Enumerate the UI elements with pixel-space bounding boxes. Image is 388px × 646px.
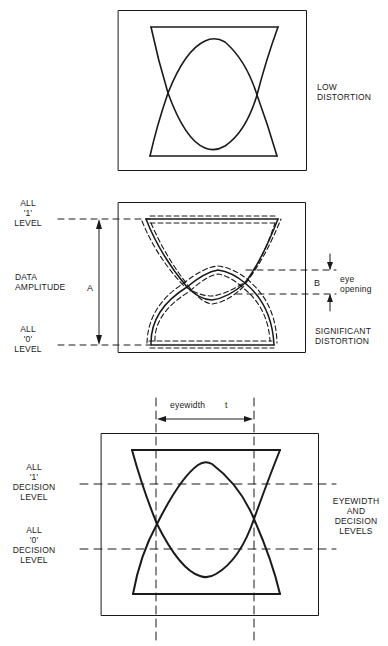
label-line: ALL [10, 198, 46, 208]
label-line: AMPLITUDE [15, 282, 65, 292]
label-line: LEVEL [10, 555, 58, 565]
label-line: DECISION [10, 545, 58, 555]
eye-pattern [150, 27, 278, 156]
eye-pattern [132, 450, 280, 594]
caption-line: LOW [317, 82, 371, 92]
eyewidth-decision-caption: EYEWIDTH AND DECISION LEVELS [330, 496, 382, 536]
caption-line: DECISION [330, 516, 382, 526]
label-line: '1' [10, 472, 58, 482]
label-line: ALL [10, 324, 46, 334]
eye-pattern-dashed [142, 216, 281, 348]
eyewidth-symbol: t [225, 400, 228, 410]
label-line: LEVEL [10, 218, 46, 228]
down-arrow-icon [327, 262, 333, 270]
label-line: eye [340, 274, 372, 284]
eye-pattern [146, 219, 278, 345]
all-0-decision-label: ALL '0' DECISION LEVEL [10, 525, 58, 565]
opening-symbol: B [314, 278, 320, 288]
up-arrow-icon [327, 294, 333, 302]
caption-line: DISTORTION [317, 92, 371, 102]
label-line: '0' [10, 334, 46, 344]
caption-line: SIGNIFICANT [315, 326, 371, 336]
panel-frame [119, 203, 306, 353]
all-1-decision-label: ALL '1' DECISION LEVEL [10, 462, 58, 502]
eyewidth-label: eyewidth [170, 400, 205, 410]
low-distortion-caption: LOW DISTORTION [317, 82, 371, 102]
label-line: '1' [10, 208, 46, 218]
eye-opening-label: eye opening [340, 274, 372, 294]
label-line: DATA [15, 272, 65, 282]
label-line: LEVEL [10, 344, 46, 354]
panel-eyewidth-decision [80, 398, 336, 640]
label-line: '0' [10, 535, 58, 545]
label-line: opening [340, 284, 372, 294]
significant-distortion-caption: SIGNIFICANT DISTORTION [315, 326, 371, 346]
panel-significant-distortion [58, 203, 336, 353]
data-amplitude-label: DATA AMPLITUDE [15, 272, 65, 292]
all-1-level-label: ALL '1' LEVEL [10, 198, 46, 228]
label-line: ALL [10, 462, 58, 472]
caption-line: EYEWIDTH [330, 496, 382, 506]
amplitude-symbol: A [87, 283, 93, 293]
caption-line: LEVELS [330, 526, 382, 536]
panel-frame [119, 11, 307, 171]
label-line: DECISION [10, 482, 58, 492]
label-line: LEVEL [10, 492, 58, 502]
panel-low-distortion [119, 11, 307, 171]
label-line: ALL [10, 525, 58, 535]
caption-line: DISTORTION [315, 336, 371, 346]
caption-line: AND [330, 506, 382, 516]
all-0-level-label: ALL '0' LEVEL [10, 324, 46, 354]
